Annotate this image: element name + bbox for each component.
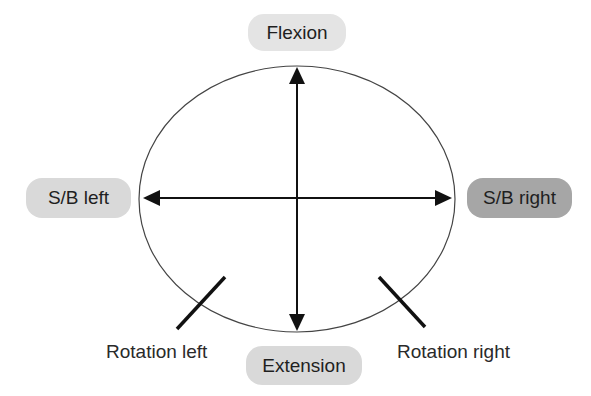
rotation-left-label: Rotation left <box>106 341 207 363</box>
sb-left-label: S/B left <box>26 178 131 218</box>
extension-label: Extension <box>246 346 362 385</box>
flexion-label: Flexion <box>248 14 346 51</box>
rotation-left-mark-icon <box>177 277 225 329</box>
sb-right-label: S/B right <box>467 178 572 218</box>
rotation-right-label: Rotation right <box>397 341 510 363</box>
